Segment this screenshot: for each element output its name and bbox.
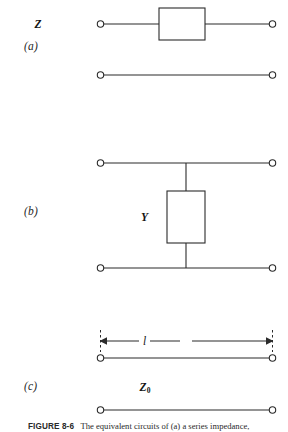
panel-b-terminal-top-left: [97, 160, 103, 166]
impedance-symbol-container: Z: [0, 18, 288, 30]
panel-b-terminal-bottom-left: [97, 265, 103, 271]
characteristic-impedance-base: Z: [140, 381, 147, 393]
panel-c-terminal-top-right: [269, 355, 275, 361]
panel-b-terminal-bottom-right: [269, 265, 275, 271]
figure-caption-number: FIGURE 8-6: [28, 422, 74, 431]
admittance-symbol: Y: [141, 211, 148, 223]
figure-caption-text: The equivalent circuits of (a) a series …: [74, 421, 249, 431]
figure-container: (a) (b) (c) Z Y l Z0 FIGURE 8-6 The equi…: [0, 0, 288, 432]
characteristic-impedance-symbol: Z0: [139, 381, 150, 393]
panel-c-terminal-top-left: [97, 355, 103, 361]
panel-a-terminal-bottom-left: [97, 72, 103, 78]
impedance-symbol: Z: [34, 18, 41, 30]
admittance-symbol-container: Y: [0, 211, 288, 223]
figure-caption: FIGURE 8-6 The equivalent circuits of (a…: [28, 421, 280, 432]
characteristic-impedance-subscript: 0: [147, 386, 151, 395]
length-symbol-container: l: [0, 335, 288, 347]
length-symbol: l: [139, 335, 150, 347]
panel-c-terminal-bottom-right: [269, 407, 275, 413]
characteristic-impedance-container: Z0: [0, 381, 288, 393]
panel-label-a: (a): [24, 40, 38, 52]
panel-c-terminal-bottom-left: [97, 407, 103, 413]
panel-b-terminal-top-right: [269, 160, 275, 166]
panel-a-terminal-bottom-right: [269, 72, 275, 78]
